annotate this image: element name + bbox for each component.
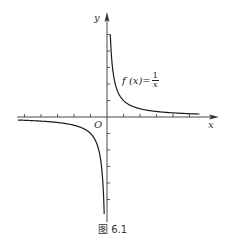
origin-label: O [94,119,102,130]
fraction-denominator: x [153,81,158,89]
x-axis-label: x [208,119,214,130]
curve-branch-negative [18,120,104,214]
function-label: f (x)= 1 x [122,72,159,89]
function-lhs: f (x)= [122,75,151,86]
figure-caption: 图 6.1 [0,221,225,236]
axes [17,12,219,222]
hyperbola-figure: y x O f (x)= 1 x 图 6.1 [0,0,225,242]
y-axis-label: y [94,12,100,23]
plot-area [0,0,225,242]
function-curves [18,35,200,215]
fraction: 1 x [152,72,159,89]
